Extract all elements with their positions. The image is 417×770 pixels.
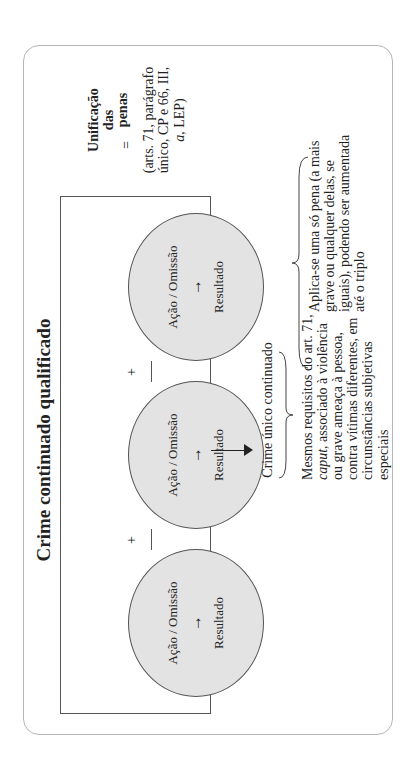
- circles-container: Ação / Omissão → Resultado Ação / Omissã…: [60, 196, 211, 714]
- arrow-icon: →: [186, 279, 206, 295]
- reference-line: (arts. 71, parágrafo: [141, 65, 156, 175]
- outcome-label: Crime único continuado: [260, 335, 276, 485]
- result-label: Resultado: [211, 261, 227, 313]
- penalty-line: Aplica-se uma só pena (a mais: [307, 82, 322, 312]
- arrow-down-icon: [244, 444, 253, 456]
- penalty-line: grave ou qualquer delas, se: [322, 82, 337, 312]
- penalty-text: Aplica-se uma só pena (a mais grave ou q…: [307, 82, 367, 312]
- requirements-line: especiais: [376, 280, 391, 480]
- reference-line: a, LEP): [172, 65, 187, 175]
- circle-connector-2: [151, 361, 152, 382]
- plus-sign-1: +: [124, 532, 140, 548]
- arrow-icon: →: [186, 615, 206, 631]
- action-result-circle-3: Ação / Omissão → Resultado: [128, 213, 264, 361]
- unification-heading: das: [102, 65, 117, 175]
- arrow-icon: →: [186, 447, 206, 463]
- requirements-line-rest: , associado à violência: [315, 323, 330, 449]
- action-label: Ação / Omissão: [165, 413, 181, 496]
- reference-rest: , LEP): [172, 98, 187, 135]
- penalty-line: até o triplo: [352, 82, 367, 312]
- penalty-line: iguais), podendo ser aumentada: [337, 82, 352, 312]
- result-label: Resultado: [211, 429, 227, 481]
- action-label: Ação / Omissão: [165, 581, 181, 664]
- equals-sign: =: [120, 141, 135, 149]
- result-label: Resultado: [211, 597, 227, 649]
- rotated-diagram-canvas: Crime continuado qualificado Ação / Omis…: [0, 0, 417, 770]
- action-result-circle-1: Ação / Omissão → Resultado: [128, 549, 264, 697]
- result-arrow-line: [211, 450, 245, 451]
- reference-line: único, CP e 66, III,: [156, 65, 171, 175]
- unification-block: = Unificação das penas (arts. 71, parágr…: [87, 65, 187, 175]
- diagram-title: Crime continuado qualificado: [33, 230, 55, 650]
- plus-sign-2: +: [124, 364, 140, 380]
- circle-connector-1: [151, 529, 152, 550]
- action-label: Ação / Omissão: [165, 245, 181, 328]
- unification-heading: Unificação: [87, 65, 102, 175]
- unification-heading: penas: [116, 65, 131, 175]
- caput-italic: caput: [315, 449, 330, 480]
- legal-references: (arts. 71, parágrafo único, CP e 66, III…: [141, 65, 187, 175]
- reference-italic: a: [172, 135, 187, 142]
